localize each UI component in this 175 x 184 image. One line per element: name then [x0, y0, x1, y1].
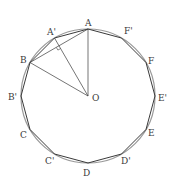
label-B: B — [20, 55, 27, 65]
label-B-prime: B' — [8, 92, 17, 102]
center-label-O: O — [92, 93, 99, 103]
point-labels: AA'BB'CC'DD'EE'FF' — [8, 18, 167, 178]
label-F-prime: F' — [124, 26, 133, 36]
geometry-diagram: AA'BB'CC'DD'EE'FF' O — [0, 0, 175, 184]
label-D: D — [83, 168, 90, 178]
radius-segments — [30, 29, 88, 96]
label-C: C — [20, 130, 27, 140]
label-E: E — [148, 128, 155, 138]
label-A-prime: A' — [46, 27, 56, 37]
segment-B-A — [30, 29, 88, 63]
segment-O-B — [30, 63, 88, 97]
label-E-prime: E' — [158, 93, 167, 103]
label-C-prime: C' — [45, 156, 54, 166]
segment-O-Ap — [55, 38, 89, 96]
label-F: F — [148, 56, 154, 66]
label-D-prime: D' — [121, 156, 131, 166]
label-A: A — [84, 18, 92, 28]
